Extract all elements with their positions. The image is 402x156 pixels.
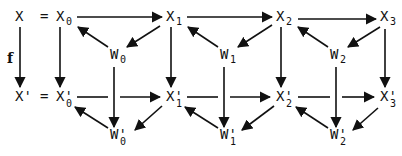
arrow-X3-W2 [348, 27, 380, 47]
node-X3: X 3 [380, 8, 396, 27]
svg-text:X: X [276, 8, 285, 24]
svg-text:0: 0 [120, 54, 126, 65]
svg-text:X: X [166, 8, 175, 24]
arrow-Xprime1-Wprime0 [135, 106, 162, 130]
svg-text:2: 2 [286, 16, 292, 27]
node-X0: X 0 [56, 8, 72, 27]
svg-text:3: 3 [390, 16, 396, 27]
svg-text:2: 2 [340, 136, 346, 147]
svg-text:W: W [220, 46, 229, 62]
node-X: X [15, 8, 24, 24]
svg-text:X: X [56, 8, 65, 24]
arrow-Xprime3-Wprime2 [353, 108, 378, 130]
svg-text:W: W [110, 46, 119, 62]
arrow-W2-X2 [298, 27, 328, 47]
arrow-X2-W1 [238, 25, 272, 47]
svg-text:0: 0 [120, 136, 126, 147]
node-Xprime0: X' 0 [56, 88, 73, 109]
svg-text:2: 2 [286, 98, 292, 109]
equals-sign-top: = [40, 8, 48, 24]
arrow-Xprime2-Wprime1 [242, 106, 274, 130]
svg-text:X': X' [15, 88, 32, 104]
node-Xprime2: X' 2 [276, 88, 293, 109]
svg-text:1: 1 [230, 54, 236, 65]
node-W1: W 1 [220, 46, 236, 65]
node-X1: X 1 [166, 8, 182, 27]
commutative-diagram: X = X 0 X 1 X 2 X 3 W 0 W 1 W 2 f X' = X… [0, 0, 402, 156]
svg-text:2: 2 [340, 54, 346, 65]
svg-text:0: 0 [66, 98, 72, 109]
arrow-W1-X1 [188, 27, 218, 47]
equals-sign-bottom: = [40, 88, 48, 104]
svg-text:0: 0 [66, 16, 72, 27]
arrow-Wprime2-Xprime2 [296, 107, 328, 128]
node-W2: W 2 [330, 46, 346, 65]
svg-text:1: 1 [230, 136, 236, 147]
node-Xprime: X' [15, 88, 32, 104]
svg-text:3: 3 [390, 98, 396, 109]
svg-text:1: 1 [176, 98, 182, 109]
arrow-Wprime0-Xprime0 [75, 107, 108, 128]
node-Wprime2: W' 2 [330, 126, 347, 147]
node-Xprime1: X' 1 [166, 88, 183, 109]
arrow-W0-X0 [78, 27, 108, 47]
node-Xprime3: X' 3 [380, 88, 397, 109]
node-X2: X 2 [276, 8, 292, 27]
node-Wprime0: W' 0 [110, 126, 127, 147]
arrow-Wprime1-Xprime1 [185, 107, 218, 128]
svg-text:X: X [380, 8, 389, 24]
node-W0: W 0 [110, 46, 126, 65]
arrow-X1-W0 [127, 26, 160, 47]
map-label-f: f [7, 50, 14, 66]
svg-text:X: X [15, 8, 24, 24]
svg-text:1: 1 [176, 16, 182, 27]
node-Wprime1: W' 1 [220, 126, 237, 147]
svg-text:W: W [330, 46, 339, 62]
